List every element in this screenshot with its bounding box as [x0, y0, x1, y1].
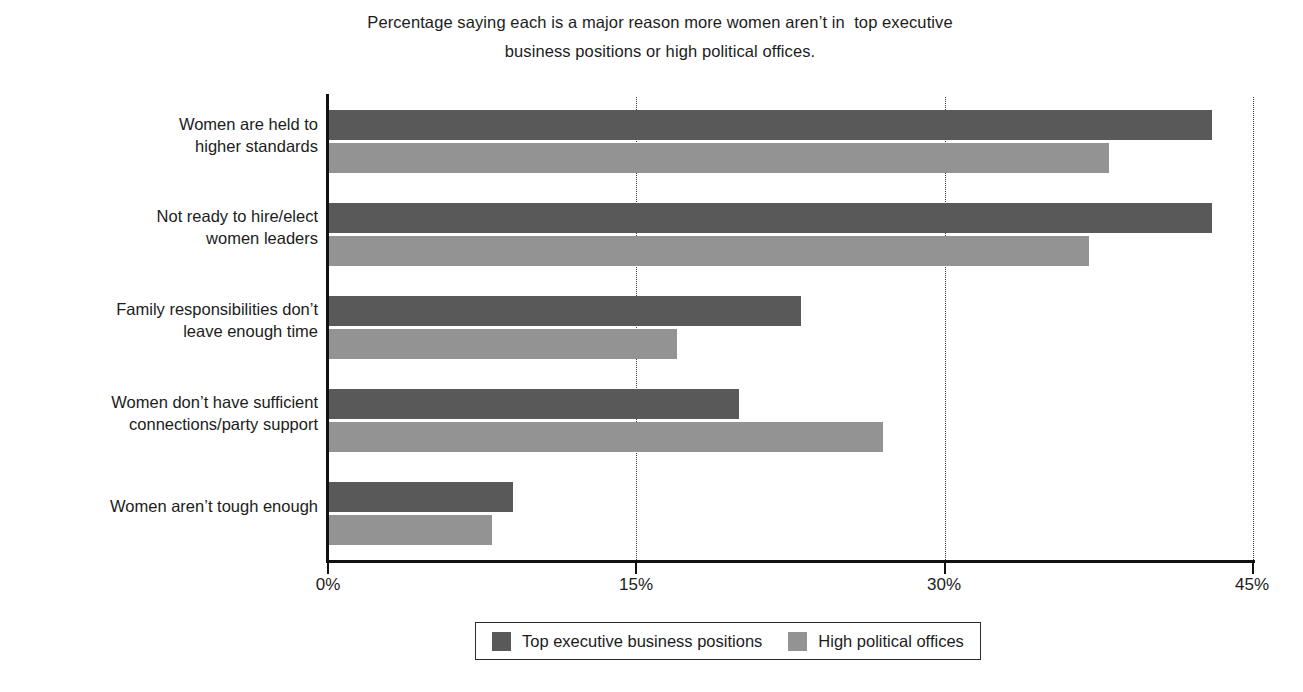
category-label-2: Family responsibilities don’t leave enou…	[0, 298, 318, 342]
chart-title: Percentage saying each is a major reason…	[200, 8, 1120, 66]
bar-series-a-category-3	[328, 389, 739, 419]
bar-series-b-category-1	[328, 236, 1089, 266]
y-axis-category-labels: Women are held to higher standards Not r…	[0, 0, 318, 692]
legend-entry-series-a: Top executive business positions	[492, 632, 762, 651]
chart-title-line-2: business positions or high political off…	[200, 37, 1120, 66]
x-tick-mark-0	[327, 563, 329, 574]
bar-series-b-category-4	[328, 515, 492, 545]
legend-swatch-icon-series-a	[492, 632, 511, 651]
x-tick-label-30: 30%	[927, 575, 961, 595]
bar-series-b-category-3	[328, 422, 883, 452]
bar-series-a-category-0	[328, 110, 1212, 140]
bar-series-b-category-2	[328, 329, 677, 359]
legend-label-series-a: Top executive business positions	[522, 632, 762, 651]
gridline-45	[1253, 97, 1254, 560]
x-tick-mark-45	[1252, 563, 1254, 574]
bar-series-a-category-2	[328, 296, 801, 326]
legend-entry-series-b: High political offices	[788, 632, 964, 651]
legend-swatch-icon-series-b	[788, 632, 807, 651]
plot-area	[328, 97, 1253, 560]
category-label-3: Women don’t have sufficient connections/…	[0, 391, 318, 435]
chart-legend: Top executive business positions High po…	[475, 622, 981, 660]
x-axis-line	[328, 560, 1255, 563]
category-label-0: Women are held to higher standards	[0, 113, 318, 157]
chart-title-line-1: Percentage saying each is a major reason…	[200, 8, 1120, 37]
x-tick-label-45: 45%	[1235, 575, 1269, 595]
bar-series-a-category-4	[328, 482, 513, 512]
bar-series-a-category-1	[328, 203, 1212, 233]
x-tick-label-15: 15%	[619, 575, 653, 595]
x-tick-mark-15	[635, 563, 637, 574]
bar-series-b-category-0	[328, 143, 1109, 173]
x-tick-label-0: 0%	[316, 575, 341, 595]
category-label-1: Not ready to hire/elect women leaders	[0, 205, 318, 249]
legend-label-series-b: High political offices	[818, 632, 964, 651]
category-label-4: Women aren’t tough enough	[0, 495, 318, 517]
x-tick-mark-30	[944, 563, 946, 574]
y-axis-line	[326, 94, 329, 563]
